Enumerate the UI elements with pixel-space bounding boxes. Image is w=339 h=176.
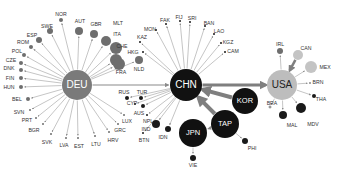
node-label-cze: CZE <box>6 57 17 63</box>
edge-deu-est <box>77 100 78 135</box>
edge-tap-jpn <box>208 128 211 129</box>
node-label-svk: SVK <box>42 139 53 145</box>
node-label-lva: LVA <box>59 142 69 148</box>
node-label-esp: ESP <box>27 32 38 38</box>
node-label-pol: POL <box>12 48 22 54</box>
node-label-ita: ITA <box>113 31 121 37</box>
node-label-lao: LAO <box>214 28 224 34</box>
node-bgr <box>42 123 44 125</box>
node-dnk <box>19 68 23 72</box>
edge-usa-tha <box>297 90 311 95</box>
node-label-sri: SRI <box>188 15 197 21</box>
node-label-mex: MEX <box>319 64 331 70</box>
labels-layer: NORSWEAUTGBRESPMLTITAROMPOLCHECZEDNKFRAN… <box>3 11 331 168</box>
node-tur <box>139 96 143 100</box>
node-label-fin: FIN <box>6 75 15 81</box>
node-bel <box>26 97 30 101</box>
node-lva <box>65 137 67 139</box>
node-label-hrv: HRV <box>108 137 119 143</box>
edge-deu-lva <box>67 100 74 135</box>
node-label-vie: VIE <box>189 162 198 168</box>
node-label-bel: BEL <box>12 96 22 102</box>
edge-deu-grc <box>88 96 116 123</box>
node-label-prt: PRT <box>22 117 33 123</box>
node-label-mon: MON <box>144 26 156 32</box>
node-hun <box>19 85 23 89</box>
node-label-svn: SVN <box>14 109 25 115</box>
edge-deu-ltu <box>82 100 94 134</box>
node-label-phi: PHI <box>248 145 257 151</box>
node-label-mdv: MDV <box>307 121 319 127</box>
node-mlt <box>101 36 111 46</box>
edge-deu-hun <box>24 86 61 87</box>
node-svk <box>50 133 52 135</box>
edge-kor-chn <box>203 90 232 98</box>
node-label-cyp: CYP <box>127 100 138 106</box>
node-label-ind: IND <box>142 126 151 132</box>
node-ind <box>152 120 160 128</box>
edge-usa-irl <box>280 55 281 69</box>
edge-chn-ind <box>159 98 176 120</box>
edge-chn-lao <box>194 36 213 70</box>
node-label-aut: AUT <box>75 18 86 24</box>
edge-deu-bel <box>31 89 62 98</box>
node-label-grc: GRC <box>114 127 126 133</box>
node-fin <box>19 76 23 80</box>
node-label-fak: FAK <box>160 17 170 23</box>
edge-deu-dnk <box>24 71 62 81</box>
hub-label-deu: DEU <box>66 79 87 90</box>
node-label-mlt: MLT <box>113 20 124 26</box>
node-ltu <box>94 135 96 137</box>
node-mex <box>305 61 317 73</box>
network-svg: NORSWEAUTGBRESPMLTITAROMPOLCHECZEDNKFRAN… <box>0 0 339 176</box>
edge-chn-kaz <box>142 44 174 74</box>
node-label-mal: MAL <box>287 122 298 128</box>
node-label-kgz: KGZ <box>223 39 234 45</box>
edge-deu-prt <box>38 95 65 117</box>
node-hkg <box>142 51 144 53</box>
node-grc <box>117 123 119 125</box>
edge-chn-kgz <box>197 45 220 72</box>
node-npl <box>146 114 148 116</box>
node-label-idn: IDN <box>159 134 168 140</box>
node-label-ban: BAN <box>204 20 215 26</box>
edge-deu-lux <box>90 93 122 113</box>
node-vie <box>190 155 196 161</box>
edge-chn-npl <box>149 95 173 113</box>
edge-chn-fij <box>180 23 184 68</box>
node-label-fij: FIJ <box>175 14 183 20</box>
node-mal <box>279 111 287 119</box>
node-brn <box>309 82 311 84</box>
node-kaz <box>139 41 141 43</box>
node-label-aus: AUS <box>134 110 145 116</box>
node-svn <box>29 109 31 111</box>
node-label-cam: CAM <box>227 48 239 54</box>
node-cam <box>224 51 226 53</box>
node-gbr <box>90 30 98 38</box>
node-irl <box>277 48 283 54</box>
node-fra <box>113 58 125 70</box>
node-rom <box>29 45 33 49</box>
node-est <box>77 137 79 139</box>
edge-deu-cze <box>24 64 62 79</box>
edge-chn-cam <box>199 54 223 75</box>
hub-label-kor: KOR <box>237 96 254 105</box>
node-prt <box>35 117 37 119</box>
edge-deu-mlt <box>86 46 103 72</box>
node-mdv <box>296 103 306 113</box>
node-label-nld: NLD <box>134 66 145 72</box>
node-label-ltu: LTU <box>91 141 101 147</box>
node-label-rus: RUS <box>119 89 130 95</box>
node-idn <box>165 126 171 132</box>
node-label-bra: BRA <box>267 100 278 106</box>
edge-deu-ita <box>88 53 110 74</box>
node-cze <box>19 61 23 65</box>
edge-deu-nor <box>62 23 73 70</box>
node-label-gbr: GBR <box>90 21 101 27</box>
node-label-che: CHE <box>117 43 128 49</box>
edge-deu-aut <box>78 36 79 69</box>
node-label-lux: LUX <box>122 118 133 124</box>
node-label-hkg: HKG <box>127 49 138 55</box>
edge-deu-pol <box>27 57 63 78</box>
node-label-tha: THA <box>316 96 327 102</box>
